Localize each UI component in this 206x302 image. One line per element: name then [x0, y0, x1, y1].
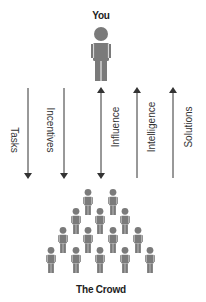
tasks-label: Tasks [9, 127, 20, 153]
diagram-graphics [0, 0, 206, 302]
you-figure-icon [91, 27, 111, 81]
crowdsourcing-diagram: You Tasks Incentives Influence Intellige… [0, 0, 206, 302]
solutions-label: Solutions [183, 106, 194, 147]
crowd-label: The Crowd [60, 284, 142, 295]
intelligence-label: Intelligence [146, 102, 157, 153]
influence-label: Influence [110, 107, 121, 148]
incentives-label: Incentives [45, 107, 56, 152]
crowd-figures-icon [46, 189, 155, 273]
you-label: You [81, 10, 121, 21]
